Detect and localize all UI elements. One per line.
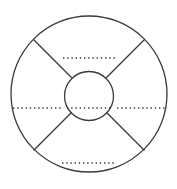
inner-circle (65, 72, 114, 121)
spoke-top-left (34, 40, 72, 78)
spoke-bottom-left (34, 112, 72, 150)
spoke-bottom-right (106, 112, 144, 150)
diagram-canvas (0, 0, 177, 189)
spoke-top-right (106, 40, 144, 78)
quadrant-circle-diagram (0, 0, 177, 189)
outer-circle (11, 16, 167, 172)
